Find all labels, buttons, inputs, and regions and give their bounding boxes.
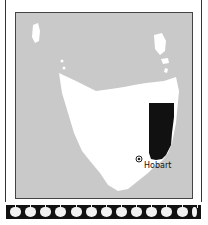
apple-icon [116,207,127,217]
apple-icon [177,207,188,217]
apple-icon [25,207,36,217]
apple-icon [86,207,97,217]
apple-icon [71,207,82,217]
right-border-line [201,0,202,202]
apple-icon [146,207,157,217]
city-label-hobart: Hobart [144,161,171,170]
apple-icon [101,207,112,217]
apple-icon [40,207,51,217]
apple-icon [131,207,142,217]
footer-icon-strip [6,205,201,219]
apple-icon [161,207,172,217]
apple-icon [192,207,197,217]
apple-icon [10,207,21,217]
tasmania-map [16,13,192,198]
map-frame: Hobart [15,12,193,199]
left-border-line [5,0,6,202]
apple-icon [55,207,66,217]
